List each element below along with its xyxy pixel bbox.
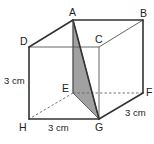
edge-eh-hidden [29, 93, 73, 119]
vertex-label-d: D [20, 35, 28, 47]
dimension-width: 3 cm [48, 122, 69, 133]
cube-diagram: A B C D E F G H 3 cm 3 cm 3 cm [0, 0, 154, 144]
vertex-label-g: G [95, 121, 103, 133]
dimension-height: 3 cm [4, 75, 25, 86]
vertex-label-e: E [62, 82, 69, 94]
vertex-label-b: B [140, 7, 147, 19]
edge-ad [29, 20, 73, 47]
vertex-label-h: H [19, 121, 27, 133]
vertex-label-a: A [69, 6, 76, 18]
vertex-label-c: C [95, 33, 103, 45]
vertex-label-f: F [146, 86, 152, 98]
dimension-depth: 3 cm [125, 107, 146, 118]
edge-cb [99, 20, 143, 47]
